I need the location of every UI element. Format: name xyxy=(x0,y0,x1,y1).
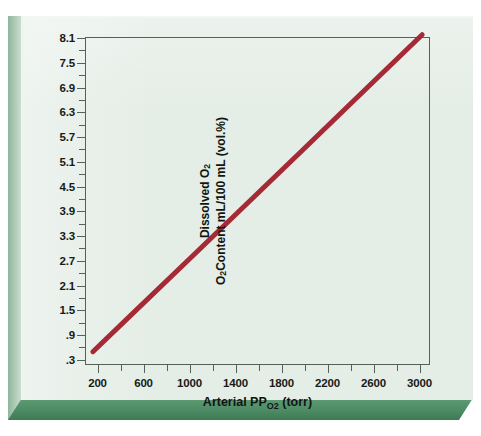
x-axis-tick xyxy=(374,364,375,373)
x-axis-tick xyxy=(397,364,398,371)
figure-bevel-left xyxy=(8,16,22,420)
x-axis-tick xyxy=(328,364,329,373)
x-axis-title: Arterial PPO2 (torr) xyxy=(85,395,430,409)
x-axis-tick-label: 600 xyxy=(134,377,153,389)
x-axis-tick xyxy=(213,364,214,371)
x-axis-tick-label: 1400 xyxy=(223,377,248,389)
x-axis-tick xyxy=(190,364,191,373)
chart-area: .3.91.52.12.73.33.94.55.15.76.36.97.58.1… xyxy=(21,16,473,400)
y-axis-title-line-2: O2 Content mL/100 mL (vol.%) xyxy=(57,37,385,365)
x-axis-tick xyxy=(236,364,237,373)
x-axis-tick-label: 1000 xyxy=(177,377,202,389)
x-axis-tick xyxy=(351,364,352,371)
x-axis-tick xyxy=(420,364,421,373)
figure-plate: .3.91.52.12.73.33.94.55.15.76.36.97.58.1… xyxy=(0,0,481,436)
x-axis-tick-label: 3000 xyxy=(407,377,432,389)
x-axis-tick-label: 2600 xyxy=(361,377,386,389)
x-axis-tick-label: 1800 xyxy=(269,377,294,389)
y-axis-title: Dissolved O2 O2 Content mL/100 mL (vol.%… xyxy=(27,37,67,365)
x-axis-tick xyxy=(305,364,306,371)
x-axis-tick xyxy=(167,364,168,371)
x-axis-tick xyxy=(98,364,99,373)
x-axis-tick-label: 2200 xyxy=(315,377,340,389)
x-axis-tick xyxy=(121,364,122,371)
x-axis-tick xyxy=(259,364,260,371)
x-axis-tick xyxy=(144,364,145,373)
x-axis-tick-label: 200 xyxy=(88,377,107,389)
x-axis-tick xyxy=(282,364,283,373)
